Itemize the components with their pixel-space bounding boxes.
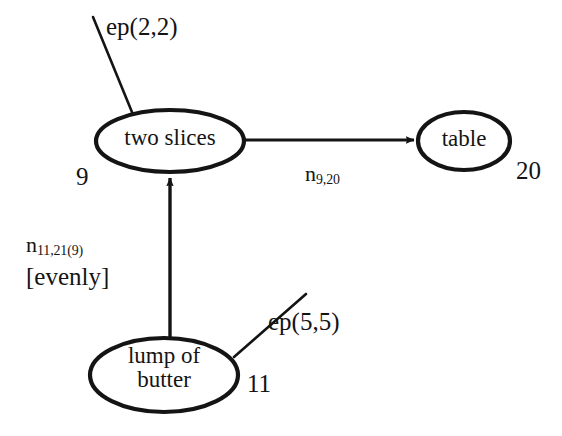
edge-label-two-slices-to-table: n9,20 [305, 161, 340, 188]
annotation-ep-lump-of-butter: ep(5,5) [268, 308, 340, 336]
node-identifier-two-slices: 9 [76, 163, 89, 191]
node-identifier-lump-of-butter: 11 [247, 370, 271, 398]
diagram-canvas: two slices table lump of butter 9 20 11 … [0, 0, 562, 436]
edge-label-lump-to-two-slices: n11,21(9) [26, 232, 83, 259]
node-identifier-table: 20 [516, 157, 541, 185]
annotation-ep-two-slices: ep(2,2) [106, 13, 178, 41]
node-ellipse-two-slices[interactable] [96, 110, 244, 172]
diagram-graphics-layer [0, 0, 562, 436]
edge-label-subscript: 11,21(9) [37, 243, 83, 258]
edge-label-base: n [26, 232, 37, 257]
node-ellipse-table[interactable] [418, 112, 510, 170]
edge-label-subscript: 9,20 [316, 172, 340, 187]
edge-label-base: n [305, 161, 316, 186]
edge-label-manner-evenly: [evenly] [26, 263, 109, 291]
node-ellipse-lump-of-butter[interactable] [90, 338, 238, 412]
